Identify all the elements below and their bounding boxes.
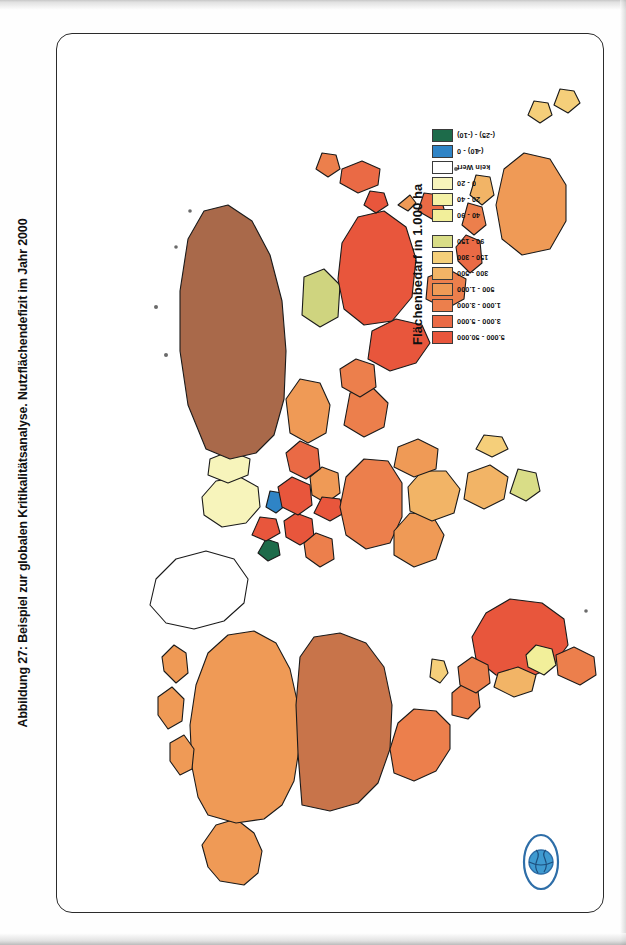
legend-label-deficit-1: 3.000 - 5.000	[457, 318, 501, 325]
legend-swatch-surplus-1	[432, 193, 453, 206]
region-west-africa	[394, 513, 444, 567]
legend-item-surplus-3[interactable]: kein Wert	[432, 160, 490, 175]
legend-label-surplus-5: (-25) - (-10)	[457, 132, 495, 139]
legend-swatch-surplus-3	[432, 161, 453, 174]
region-north-africa	[340, 459, 402, 549]
legend-label-surplus-1: 20 - 40	[457, 196, 480, 203]
region-scandinavia	[202, 477, 260, 527]
region-greenland	[150, 551, 248, 629]
figure-caption-container: Abbildung 27: Beispiel zur globalen Krit…	[0, 0, 46, 945]
island-speck-7	[584, 609, 588, 613]
region-south-africa	[510, 469, 540, 501]
legend-label-deficit-5: 150 - 300	[457, 254, 488, 261]
region-germany-poland	[278, 477, 312, 515]
region-united-kingdom	[252, 517, 280, 541]
legend-item-surplus-4[interactable]: (-10) - 0	[432, 144, 483, 159]
region-central-africa	[408, 471, 460, 521]
legend-item-deficit-4[interactable]: 300 - 500	[432, 266, 488, 281]
legend-label-deficit-4: 300 - 500	[457, 270, 488, 277]
region-arctic-islands-2	[158, 687, 184, 729]
globe-eye-logo	[510, 831, 572, 893]
legend-item-deficit-5[interactable]: 150 - 300	[432, 250, 488, 265]
map-legend: Flächenbedarf in 1.000 ha 5.000 - 50.000…	[410, 45, 560, 345]
region-madagascar	[476, 435, 508, 457]
region-italy	[314, 497, 344, 521]
legend-label-surplus-2: 0 - 20	[457, 180, 476, 187]
legend-item-surplus-5[interactable]: (-25) - (-10)	[432, 128, 495, 143]
region-russia	[180, 205, 286, 459]
scan-edge-right	[620, 0, 626, 945]
region-ireland	[258, 539, 280, 561]
figure-caption: Abbildung 27: Beispiel zur globalen Krit…	[16, 218, 30, 727]
region-china	[338, 211, 416, 325]
island-speck-3	[174, 245, 178, 249]
legend-swatch-deficit-1	[432, 315, 453, 328]
legend-swatch-surplus-5	[432, 129, 453, 142]
legend-label-deficit-3: 500 - 1.000	[457, 286, 494, 293]
region-arctic-islands-3	[162, 645, 188, 683]
region-chile-argentina	[556, 647, 596, 685]
region-japan	[340, 161, 380, 193]
region-mexico	[390, 709, 450, 781]
legend-swatch-row: 5.000 - 50.000 3.000 - 5.000 1.000 - 3.0…	[432, 45, 505, 345]
legend-swatch-surplus-0	[432, 209, 453, 222]
scan-edge-bottom	[0, 933, 626, 945]
region-korea	[364, 191, 388, 213]
legend-item-deficit-0[interactable]: 5.000 - 50.000	[432, 330, 505, 345]
legend-item-surplus-0[interactable]: 40 - 90	[432, 208, 480, 223]
region-caribbean	[430, 659, 448, 683]
region-united-states	[296, 633, 392, 811]
region-middle-east	[344, 387, 388, 437]
legend-label-deficit-0: 5.000 - 50.000	[457, 334, 505, 341]
legend-item-deficit-6[interactable]: 90 - 150	[432, 234, 484, 249]
legend-label-surplus-3: kein Wert	[457, 164, 490, 171]
island-speck-2	[154, 305, 158, 309]
legend-item-deficit-1[interactable]: 3.000 - 5.000	[432, 314, 501, 329]
legend-swatch-deficit-0	[432, 331, 453, 344]
map-stage: Flächenbedarf in 1.000 ha 5.000 - 50.000…	[58, 35, 602, 911]
legend-swatch-surplus-4	[432, 145, 453, 158]
legend-label-deficit-6: 90 - 150	[457, 238, 484, 245]
region-ukraine	[286, 441, 320, 479]
region-japan-north	[316, 153, 340, 177]
legend-label-surplus-4: (-10) - 0	[457, 148, 483, 155]
legend-item-surplus-2[interactable]: 0 - 20	[432, 176, 476, 191]
legend-label-deficit-2: 1.000 - 3.000	[457, 302, 501, 309]
region-southern-africa	[464, 465, 508, 509]
figure-frame: Flächenbedarf in 1.000 ha 5.000 - 50.000…	[56, 33, 604, 913]
legend-item-surplus-1[interactable]: 20 - 40	[432, 192, 480, 207]
region-mongolia	[302, 269, 340, 327]
island-speck-4	[188, 209, 192, 213]
legend-swatch-deficit-3	[432, 283, 453, 296]
legend-title: Flächenbedarf in 1.000 ha	[410, 45, 425, 345]
region-alaska	[202, 819, 262, 885]
legend-swatch-deficit-2	[432, 299, 453, 312]
region-canada	[190, 631, 300, 823]
legend-swatch-surplus-2	[432, 177, 453, 190]
legend-item-deficit-3[interactable]: 500 - 1.000	[432, 282, 494, 297]
island-speck-1	[164, 353, 168, 357]
legend-swatch-deficit-4	[432, 267, 453, 280]
scan-edge-top	[0, 0, 626, 10]
region-kazakhstan	[286, 379, 330, 443]
legend-swatch-deficit-5	[432, 251, 453, 264]
legend-label-surplus-0: 40 - 90	[457, 212, 480, 219]
legend-swatch-deficit-6	[432, 235, 453, 248]
legend-item-deficit-2[interactable]: 1.000 - 3.000	[432, 298, 501, 313]
